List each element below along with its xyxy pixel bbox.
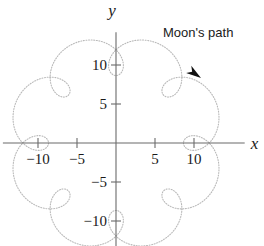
x-axis-label: x	[251, 135, 259, 152]
x-tick-label: −5	[69, 152, 85, 167]
y-tick-label: −5	[91, 175, 107, 190]
direction-arrowhead-group	[186, 66, 201, 78]
x-tick-label: 10	[187, 152, 202, 167]
x-tick-label: 5	[151, 152, 159, 167]
x-tick-label: −10	[26, 152, 49, 167]
moon-path-annotation: Moon's path	[163, 26, 233, 39]
y-axis-label: y	[108, 2, 116, 19]
y-tick-label: −10	[84, 214, 107, 229]
moon-path-figure: −10−5510105−5−10 x y Moon's path	[0, 0, 264, 246]
direction-arrowhead	[186, 66, 201, 78]
y-tick-label: 10	[92, 58, 107, 73]
y-tick-label: 5	[100, 97, 108, 112]
